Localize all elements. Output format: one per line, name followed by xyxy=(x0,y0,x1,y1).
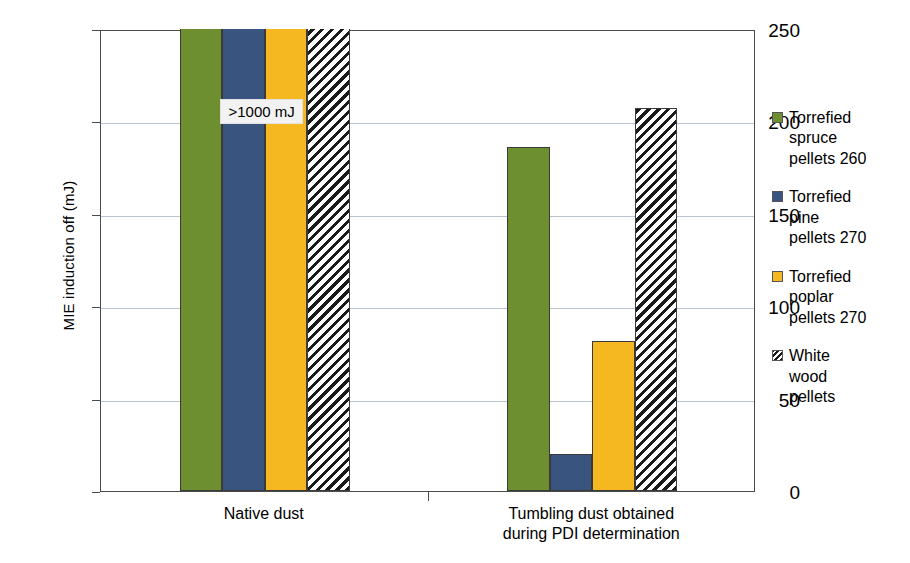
y-axis-tick-mark xyxy=(92,30,100,31)
legend-swatch-icon xyxy=(772,112,783,123)
y-axis-tick-mark xyxy=(92,215,100,216)
y-axis-title-container: MIE induction off (mJ) xyxy=(14,30,48,492)
y-axis-tick-label: 250 xyxy=(754,21,810,40)
y-axis-tick-mark xyxy=(92,307,100,308)
y-axis-tick-mark xyxy=(92,400,100,401)
legend-item[interactable]: Torrefied pine pellets 270 xyxy=(772,187,908,248)
mie-bar-chart: MIE induction off (mJ) 050100150200250 >… xyxy=(0,0,910,563)
legend-swatch-icon xyxy=(772,350,783,361)
bar xyxy=(180,29,223,491)
x-axis-category-label: Native dust xyxy=(100,504,428,524)
legend-item[interactable]: Torrefied spruce pellets 260 xyxy=(772,108,908,169)
bar xyxy=(507,147,550,491)
bar xyxy=(550,454,593,491)
legend-item-label: White wood pellets xyxy=(789,346,835,407)
x-axis-category-divider xyxy=(428,492,429,501)
bar-series-layer xyxy=(101,31,754,491)
bar xyxy=(592,341,635,491)
y-axis-title: MIE induction off (mJ) xyxy=(60,106,77,406)
legend-item-label: Torrefied spruce pellets 260 xyxy=(789,108,866,169)
plot-area: >1000 mJ xyxy=(100,30,755,492)
legend-item[interactable]: White wood pellets xyxy=(772,346,908,407)
y-axis-tick-mark xyxy=(92,492,100,493)
chart-legend: Torrefied spruce pellets 260Torrefied pi… xyxy=(772,108,908,426)
bar xyxy=(307,29,350,491)
x-axis-category-label: Tumbling dust obtained during PDI determ… xyxy=(428,504,756,544)
y-axis-tick-mark xyxy=(92,122,100,123)
y-axis-tick-label: 0 xyxy=(754,483,810,502)
legend-item-label: Torrefied poplar pellets 270 xyxy=(789,267,866,328)
bar xyxy=(222,29,265,491)
legend-item-label: Torrefied pine pellets 270 xyxy=(789,187,866,248)
legend-swatch-icon xyxy=(772,191,783,202)
bar-annotation: >1000 mJ xyxy=(220,99,302,124)
bar xyxy=(635,108,678,491)
bar xyxy=(265,29,308,491)
legend-item[interactable]: Torrefied poplar pellets 270 xyxy=(772,267,908,328)
legend-swatch-icon xyxy=(772,271,783,282)
